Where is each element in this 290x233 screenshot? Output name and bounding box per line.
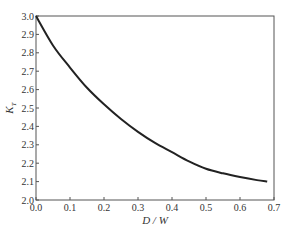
y-tick-label: 2.2: [22, 158, 35, 169]
x-axis-label: D / W: [141, 214, 169, 226]
x-tick-label: 0.2: [98, 202, 111, 213]
y-tick-label: 2.1: [22, 176, 35, 187]
y-tick-label: 2.4: [22, 121, 35, 132]
chart: 2.02.12.22.32.42.52.62.72.82.93.0 0.00.1…: [0, 0, 290, 233]
y-tick-label: 3.0: [22, 11, 35, 22]
x-axis-ticks: 0.00.10.20.30.40.50.60.7: [30, 197, 281, 213]
plot-frame: [36, 16, 274, 200]
kt-curve: [36, 16, 267, 182]
y-tick-label: 2.7: [22, 66, 35, 77]
y-tick-label: 2.3: [22, 139, 35, 150]
x-tick-label: 0.1: [64, 202, 77, 213]
y-tick-label: 2.8: [22, 47, 35, 58]
x-tick-label: 0.3: [132, 202, 145, 213]
x-tick-label: 0.0: [30, 202, 43, 213]
x-tick-label: 0.6: [234, 202, 247, 213]
y-axis-label: KT: [3, 101, 18, 114]
x-tick-label: 0.4: [166, 202, 179, 213]
y-tick-label: 2.5: [22, 103, 35, 114]
y-tick-label: 2.6: [22, 84, 35, 95]
x-tick-label: 0.7: [268, 202, 281, 213]
y-axis-label-sub: T: [10, 101, 18, 106]
y-tick-label: 2.9: [22, 29, 35, 40]
x-tick-label: 0.5: [200, 202, 213, 213]
